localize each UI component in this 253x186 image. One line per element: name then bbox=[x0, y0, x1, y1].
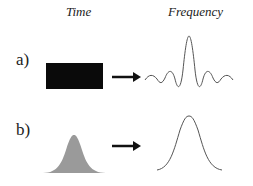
arrow-b-icon bbox=[112, 141, 141, 151]
arrow-a-icon bbox=[112, 72, 141, 82]
gaussian-filled bbox=[43, 135, 106, 173]
diagram-graphics bbox=[0, 0, 253, 186]
fourier-transform-diagram: Time Frequency a) b) bbox=[0, 0, 253, 186]
gaussian-curve bbox=[157, 116, 222, 170]
rectangle-pulse bbox=[46, 63, 103, 89]
sinc-curve bbox=[145, 36, 233, 87]
